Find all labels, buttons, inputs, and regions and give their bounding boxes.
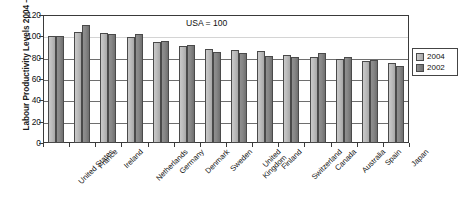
bar-2004 (100, 33, 108, 143)
bar-2002 (161, 41, 169, 143)
x-tick-mark (331, 143, 332, 147)
bar-2004 (153, 42, 161, 143)
bar-2004 (310, 57, 318, 143)
legend-swatch-2002-icon (416, 64, 424, 72)
bar-2004 (283, 55, 291, 143)
bar-2002 (82, 25, 90, 143)
bar-2002 (187, 45, 195, 143)
x-tick-mark (174, 143, 175, 147)
x-tick-mark (252, 143, 253, 147)
bar-group (362, 15, 378, 143)
x-tick-mark (69, 143, 70, 147)
x-category-label: Spain (383, 148, 403, 168)
y-tick-label-60: 60 (11, 75, 41, 83)
bar-series-layer (43, 15, 409, 143)
legend-label-2004: 2004 (427, 53, 445, 61)
bar-group (48, 15, 64, 143)
bar-group (388, 15, 404, 143)
bar-group (310, 15, 326, 143)
legend-item-2002: 2002 (416, 62, 454, 73)
y-tick-label-40: 40 (11, 96, 41, 104)
x-tick-mark (43, 143, 44, 147)
x-category-label: Japan (410, 148, 430, 168)
bar-2002 (344, 57, 352, 143)
bar-group (153, 15, 169, 143)
chart-legend: 2004 2002 (412, 48, 458, 76)
legend-label-2002: 2002 (427, 64, 445, 72)
bar-2002 (370, 60, 378, 143)
bar-2002 (108, 34, 116, 143)
y-tick-label-120: 120 (11, 11, 41, 19)
usa-baseline-annotation: USA = 100 (186, 18, 227, 28)
x-category-label: Ireland (123, 148, 145, 170)
bar-2004 (48, 36, 56, 143)
bar-group (205, 15, 221, 143)
bar-2004 (179, 46, 187, 143)
x-tick-mark (383, 143, 384, 147)
bar-group (283, 15, 299, 143)
bar-2002 (56, 36, 64, 143)
y-tick-label-100: 100 (11, 32, 41, 40)
bar-2004 (257, 51, 265, 143)
bar-2002 (318, 53, 326, 143)
legend-item-2004: 2004 (416, 51, 454, 62)
x-tick-mark (95, 143, 96, 147)
x-tick-mark (200, 143, 201, 147)
bar-group (179, 15, 195, 143)
bar-2002 (291, 57, 299, 143)
x-category-label: Finland (280, 148, 303, 171)
bar-group (231, 15, 247, 143)
x-category-label: France (97, 148, 120, 171)
bar-group (100, 15, 116, 143)
bar-2004 (362, 61, 370, 143)
x-tick-mark (304, 143, 305, 147)
bar-group (257, 15, 273, 143)
bar-2004 (231, 50, 239, 143)
x-tick-mark (409, 143, 410, 147)
bar-2002 (396, 66, 404, 143)
x-tick-mark (357, 143, 358, 147)
y-tick-label-20: 20 (11, 118, 41, 126)
bar-group (127, 15, 143, 143)
bar-group (336, 15, 352, 143)
bar-2004 (74, 32, 82, 143)
x-category-label: Sweden (229, 148, 254, 173)
bar-2002 (213, 52, 221, 143)
y-tick-label-0: 0 (11, 139, 41, 147)
bar-group (74, 15, 90, 143)
x-tick-mark (278, 143, 279, 147)
bar-2002 (239, 53, 247, 143)
legend-swatch-2004-icon (416, 53, 424, 61)
bar-2002 (265, 56, 273, 143)
bar-2004 (336, 59, 344, 143)
bar-2004 (388, 63, 396, 143)
x-tick-mark (121, 143, 122, 147)
bar-2002 (135, 34, 143, 143)
x-category-label: Denmark (204, 148, 232, 176)
labour-productivity-bar-chart: Labour Productivity Levels 2004 – US=100… (0, 0, 462, 200)
bar-2004 (205, 49, 213, 143)
bar-2004 (127, 37, 135, 143)
x-tick-mark (148, 143, 149, 147)
x-tick-mark (226, 143, 227, 147)
y-tick-label-80: 80 (11, 54, 41, 62)
